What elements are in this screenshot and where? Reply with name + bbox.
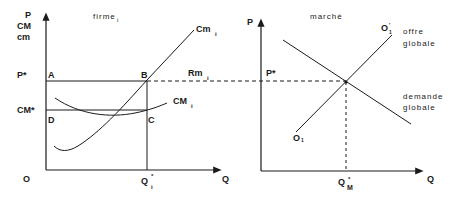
supply-curve: [296, 35, 392, 132]
market-panel: P marché P* O ' 1 offre globale demande …: [247, 12, 443, 191]
firm-y-label-p: P: [25, 10, 31, 20]
market-quantity-sub: M: [347, 184, 353, 191]
firm-y-label-cm-avg: CM: [17, 21, 31, 31]
market-quantity-label: Q: [338, 177, 345, 187]
supply-end-label: O: [381, 23, 388, 33]
firm-panel: P CM cm firme i P* A B CM* D C Cm i Rm i…: [17, 10, 346, 190]
avg-cost-star-label: CM*: [17, 105, 35, 115]
average-cost-sub: i: [191, 103, 193, 109]
firm-title-sub: i: [117, 17, 119, 23]
firm-quantity-label: Q: [141, 176, 148, 186]
marginal-cost-label: Cm: [196, 24, 211, 34]
marginal-cost-sub: i: [215, 31, 217, 37]
market-price-star-label: P*: [266, 68, 276, 78]
point-b-label: B: [141, 70, 148, 80]
price-star-label: P*: [17, 70, 27, 80]
market-x-label: Q: [427, 174, 434, 184]
point-c-label: C: [148, 115, 155, 125]
supply-start-sub: 1: [301, 137, 304, 143]
market-y-label: P: [247, 17, 253, 27]
market-title: marché: [310, 12, 343, 21]
supply-start-label: O: [293, 133, 300, 143]
point-d-label: D: [48, 115, 55, 125]
firm-quantity-sup: *: [151, 173, 154, 179]
supply-end-sub: 1: [389, 29, 392, 35]
supply-end-sup: ': [389, 22, 391, 28]
market-quantity-sup: *: [348, 176, 351, 182]
demand-desc-line2: globale: [403, 103, 436, 112]
equilibrium-point: [344, 80, 347, 83]
marginal-revenue-label: Rm: [188, 68, 203, 78]
firm-y-label-cm-marg: cm: [17, 32, 30, 42]
supply-desc-line2: globale: [403, 39, 436, 48]
firm-x-label: Q: [222, 174, 229, 184]
marginal-cost-curve: [54, 30, 194, 151]
demand-desc-line1: demande: [403, 92, 443, 101]
supply-desc-line1: offre: [403, 27, 424, 36]
average-cost-label: CM: [173, 96, 187, 106]
point-a-label: A: [48, 70, 55, 80]
firm-quantity-sub: i: [151, 184, 153, 190]
firm-origin-label: O: [23, 174, 30, 184]
average-cost-curve: [55, 98, 167, 115]
marginal-revenue-sub: i: [207, 75, 209, 81]
market-equilibrium-diagram: P CM cm firme i P* A B CM* D C Cm i Rm i…: [0, 0, 455, 200]
firm-title: firme: [93, 12, 116, 21]
